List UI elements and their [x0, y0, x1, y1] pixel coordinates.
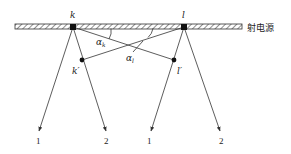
- ray-label-k-2: 2: [104, 136, 109, 146]
- source-label: 射电源: [247, 22, 274, 33]
- point-l-prime: [172, 58, 177, 63]
- line-k-to-l-prime: [73, 27, 174, 60]
- alpha-l-arc: [148, 29, 153, 38]
- label-k-prime: k′: [72, 66, 80, 76]
- radio-source-diagram: 射电源 k l k′ l′ αk αl 1 2 1 2: [0, 0, 291, 154]
- ray-label-l-1: 1: [147, 136, 152, 146]
- ray-label-l-2: 2: [219, 136, 224, 146]
- label-l: l: [182, 10, 185, 20]
- label-l-prime: l′: [177, 66, 182, 76]
- label-alpha-k: αk: [96, 37, 106, 48]
- label-k: k: [70, 10, 75, 20]
- label-alpha-l: αl: [126, 53, 134, 64]
- ray-l-1: [151, 27, 184, 131]
- ray-label-k-1: 1: [36, 136, 41, 146]
- ray-l-2: [184, 27, 220, 131]
- point-l: [181, 24, 187, 30]
- point-k-prime: [80, 58, 85, 63]
- alpha-k-arc: [109, 29, 111, 40]
- source-bar: [15, 24, 242, 29]
- point-k: [70, 24, 76, 30]
- ray-k-1: [39, 27, 73, 131]
